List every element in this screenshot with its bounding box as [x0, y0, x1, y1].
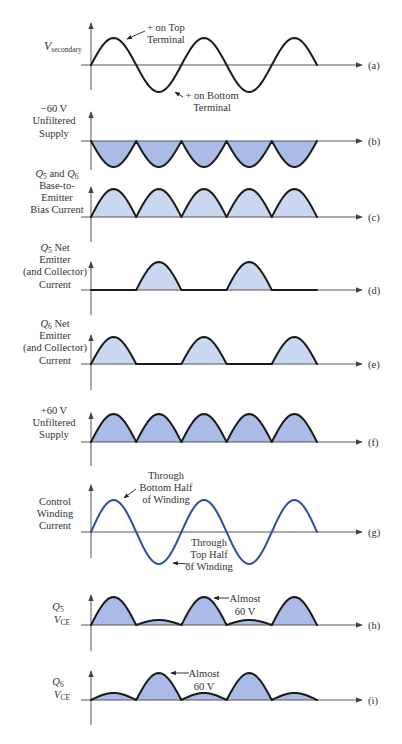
label-line: Bias Current [30, 204, 83, 215]
annotation-arrow-icon [127, 31, 145, 39]
annotation-arrow-icon [124, 489, 136, 498]
annotation-bottom-terminal-line2: Terminal [193, 102, 231, 113]
label-line: −60 V [41, 103, 68, 114]
label-line: Current [39, 520, 71, 531]
label-line: Winding [37, 508, 74, 519]
label-line: Base-to- [39, 180, 75, 191]
annotation-arrow-icon [175, 92, 183, 97]
annotation-line: of Winding [185, 561, 233, 572]
annotation-line: Almost [189, 668, 220, 679]
waveform-fill [91, 337, 317, 364]
label-line: Supply [39, 429, 70, 440]
label-line: Unfiltered [32, 115, 76, 126]
waveform-figure: (a)(b)(c)(d)(e)(f)(g)(h)(i) Vsecondary +… [0, 0, 402, 744]
panel-f-labels: +60 V Unfiltered Supply [32, 405, 76, 440]
waveform-fill [91, 141, 317, 167]
waveform-fill [91, 414, 317, 442]
label-line: Current [39, 279, 71, 290]
panel-c-labels: Q5 and Q6 Base-to- Emitter Bias Current [30, 168, 83, 215]
label-line: (and Collector) [23, 342, 87, 354]
waveform-curve [91, 262, 317, 290]
label-line: Emitter [39, 330, 71, 341]
panel-tag: (d) [368, 285, 381, 297]
annotation-line: Through [148, 470, 185, 481]
panel-tag: (g) [368, 527, 381, 539]
panel-d-labels: Q5 Net Emitter (and Collector) Current [23, 242, 87, 290]
label-line: Unfiltered [32, 417, 76, 428]
panel-e-labels: Q6 Net Emitter (and Collector) Current [23, 318, 87, 366]
label-line: Control [39, 496, 71, 507]
waveform-fill [91, 262, 317, 290]
panel-tag: (f) [368, 437, 379, 449]
label-line: Supply [39, 128, 70, 139]
annotation-line: Through [191, 537, 228, 548]
panel-f: (f) [81, 413, 379, 466]
label-line: Emitter [41, 192, 73, 203]
annotation-line: Almost [230, 593, 261, 604]
label-q5: Q5 [52, 601, 64, 614]
annotation-line: Bottom Half [140, 482, 193, 493]
annotation-top-terminal-line2: Terminal [147, 34, 185, 45]
panel-i: (i) [81, 671, 378, 725]
panel-tag: (a) [368, 60, 380, 72]
label-vce: VCE [54, 614, 70, 627]
label-line: Current [39, 355, 71, 366]
annotation-line: Top Half [190, 549, 228, 560]
panel-c: (c) [81, 187, 380, 242]
panel-tag: (c) [368, 212, 380, 224]
panel-tag: (b) [368, 136, 381, 148]
label-line: +60 V [41, 405, 68, 416]
annotation-line: 60 V [194, 681, 215, 692]
label-line: (and Collector) [23, 266, 87, 278]
annotation-line: 60 V [235, 606, 256, 617]
panel-d: (d) [81, 262, 381, 315]
panel-g-labels: Control Winding Current Through Bottom H… [37, 470, 234, 572]
panel-e: (e) [81, 335, 380, 390]
panel-tag: (h) [368, 620, 381, 632]
panel-a-labels: Vsecondary + on Top Terminal + on Bottom… [44, 22, 239, 113]
panel-b-labels: −60 V Unfiltered Supply [32, 103, 76, 139]
panel-b: (b) [81, 112, 381, 170]
annotation-line: of Winding [142, 494, 190, 505]
panel-tag: (e) [368, 359, 380, 371]
label-vce: VCE [54, 689, 70, 702]
panel-a: (a) [81, 23, 380, 92]
waveform-fill [91, 597, 317, 625]
vsecondary-label: Vsecondary [44, 39, 82, 54]
annotation-top-terminal-line1: + on Top [147, 22, 185, 33]
panel-tag: (i) [368, 695, 378, 707]
waveform-fill [91, 189, 317, 217]
label-line: Emitter [39, 254, 71, 265]
label-q6: Q6 [52, 676, 64, 689]
annotation-bottom-terminal-line1: + on Bottom [185, 90, 238, 101]
